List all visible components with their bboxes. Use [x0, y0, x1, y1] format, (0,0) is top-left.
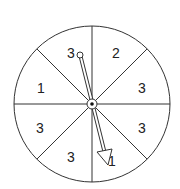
- pivot-dot: [90, 102, 94, 106]
- spinner-diagram: 2 3 3 1 3 3 1 3: [0, 0, 180, 189]
- section-label: 3: [138, 80, 146, 96]
- section-label: 3: [67, 149, 75, 165]
- section-label: 1: [37, 80, 45, 96]
- section-label: 2: [112, 45, 120, 61]
- section-label: 3: [67, 45, 75, 61]
- section-label: 3: [36, 120, 44, 136]
- arrow-tail-icon: [77, 52, 83, 58]
- section-label: 3: [138, 120, 146, 136]
